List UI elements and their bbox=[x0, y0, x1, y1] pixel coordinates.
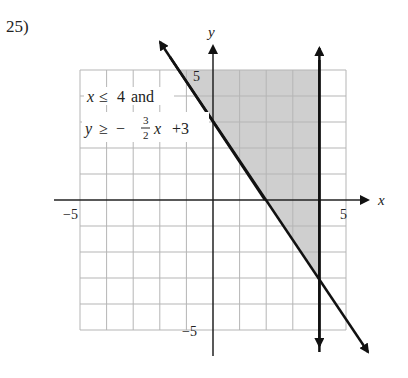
svg-text:2: 2 bbox=[143, 129, 149, 141]
x-axis-label: x bbox=[377, 192, 385, 208]
y-axis-label: y bbox=[206, 24, 215, 40]
y-max-tick-label: 5 bbox=[193, 69, 200, 84]
svg-text:−: − bbox=[116, 120, 125, 137]
svg-text:≥: ≥ bbox=[99, 120, 108, 137]
x-max-tick-label: 5 bbox=[340, 207, 347, 222]
inequality-2-label: y ≥ − 3 2 x +3 bbox=[82, 112, 209, 142]
svg-text:and: and bbox=[131, 88, 154, 105]
svg-text:4: 4 bbox=[117, 88, 125, 105]
svg-text:x: x bbox=[86, 88, 94, 105]
svg-text:3: 3 bbox=[143, 114, 149, 126]
inequality-1-label: x ≤ 4 and bbox=[84, 87, 174, 105]
inequality-graph: y x 5 −5 −5 5 x ≤ 4 and y ≥ − 3 2 x +3 bbox=[0, 0, 408, 378]
x-min-tick-label: −5 bbox=[63, 207, 78, 222]
svg-text:x: x bbox=[153, 120, 161, 137]
svg-text:+3: +3 bbox=[172, 120, 189, 137]
y-min-tick-label: −5 bbox=[182, 324, 197, 339]
svg-text:y: y bbox=[83, 120, 93, 138]
svg-text:≤: ≤ bbox=[99, 88, 108, 105]
